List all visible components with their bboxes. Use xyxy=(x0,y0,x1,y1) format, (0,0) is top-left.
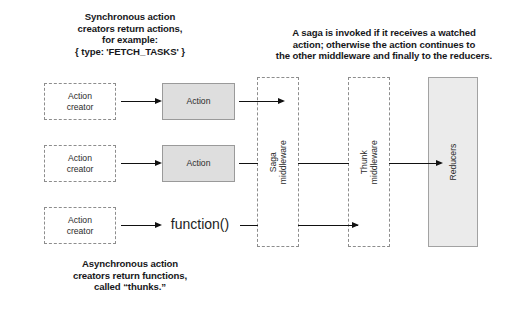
diagram-canvas: Synchronous action creators return actio… xyxy=(0,0,514,309)
arrowhead-icon xyxy=(155,160,162,166)
connector-function-to-saga xyxy=(240,225,258,226)
caption-line: creators return functions, xyxy=(10,270,250,282)
caption-line: { type: 'FETCH_TASKS' } xyxy=(10,46,250,58)
saga-explanation-caption: A saga is invoked if it receives a watch… xyxy=(256,27,512,62)
node-label: Thunk middleware xyxy=(359,140,379,184)
arrowhead-icon xyxy=(352,222,359,228)
node-label: Action creator xyxy=(67,91,94,112)
node-label: Action creator xyxy=(67,153,94,174)
asynchronous-action-creators-caption: Asynchronous action creators return func… xyxy=(10,258,250,293)
caption-line: Asynchronous action xyxy=(10,258,250,270)
caption-line: called “thunks.” xyxy=(10,281,250,293)
connector-saga-to-thunk-bottom xyxy=(298,225,358,226)
action-creator-node-2: Action creator xyxy=(44,145,116,182)
caption-line: the other middleware and finally to the … xyxy=(256,50,512,62)
caption-line: creators return actions, xyxy=(10,23,250,35)
action-creator-node-1: Action creator xyxy=(44,83,116,120)
caption-line: for example: xyxy=(10,34,250,46)
action-node-2: Action xyxy=(162,145,235,182)
function-call-node: function() xyxy=(162,214,238,234)
action-creator-node-3: Action creator xyxy=(44,207,116,244)
node-label: Action xyxy=(187,158,211,168)
arrowhead-icon xyxy=(155,98,162,104)
node-label: Action xyxy=(187,96,211,106)
arrowhead-icon xyxy=(436,160,443,166)
caption-line: action; otherwise the action continues t… xyxy=(256,39,512,51)
connector-action1-to-saga xyxy=(239,101,283,102)
node-label: Reducers xyxy=(448,144,458,181)
synchronous-action-creators-caption: Synchronous action creators return actio… xyxy=(10,11,250,57)
caption-line: Synchronous action xyxy=(10,11,250,23)
arrowhead-icon xyxy=(155,222,162,228)
node-label: Saga middleware xyxy=(268,140,288,184)
connector-action2-to-saga xyxy=(239,163,258,164)
action-node-1: Action xyxy=(162,83,235,120)
node-label: Action creator xyxy=(67,215,94,236)
arrowhead-icon xyxy=(278,98,285,104)
connector-saga-to-thunk-middle xyxy=(298,163,349,164)
caption-line: A saga is invoked if it receives a watch… xyxy=(256,27,512,39)
connector-thunk-to-reducers xyxy=(389,163,441,164)
